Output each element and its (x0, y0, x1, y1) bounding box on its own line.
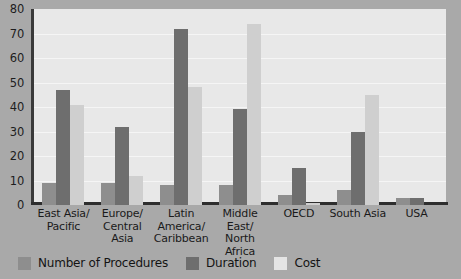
legend-swatch-icon (186, 257, 199, 270)
legend-swatch-icon (274, 257, 287, 270)
bar-procedures (101, 183, 115, 205)
legend-label: Number of Procedures (38, 256, 168, 270)
legend-label: Cost (294, 256, 320, 270)
bar-cost (188, 87, 202, 205)
legend-item[interactable]: Cost (274, 256, 320, 270)
legend-label: Duration (206, 256, 257, 270)
bar-group (93, 9, 152, 205)
bar-cost (129, 176, 143, 205)
bar-group (152, 9, 211, 205)
bar-chart: 01020304050607080 East Asia/ PacificEuro… (0, 0, 461, 279)
legend-swatch-icon (18, 257, 31, 270)
y-tick-label: 50 (0, 78, 24, 89)
y-tick-label: 70 (0, 29, 24, 40)
legend-item[interactable]: Duration (186, 256, 257, 270)
y-tick-label: 80 (0, 4, 24, 15)
bar-duration (233, 109, 247, 205)
x-axis-category-labels: East Asia/ PacificEurope/ Central AsiaLa… (34, 208, 446, 258)
bar-cost (247, 24, 261, 205)
x-tick-label: USA (387, 208, 446, 258)
x-tick-label: Middle East/ North Africa (211, 208, 270, 258)
chart-legend: Number of ProceduresDurationCost (18, 256, 338, 270)
x-tick-label: Latin America/ Caribbean (152, 208, 211, 258)
bar-duration (410, 198, 424, 205)
bar-procedures (219, 185, 233, 205)
bar-procedures (337, 190, 351, 205)
x-tick-label: South Asia (328, 208, 387, 258)
bar-duration (351, 132, 365, 206)
legend-item[interactable]: Number of Procedures (18, 256, 168, 270)
bar-cost (306, 203, 320, 205)
bar-duration (174, 29, 188, 205)
bar-duration (56, 90, 70, 205)
bar-duration (115, 127, 129, 205)
x-tick-label: Europe/ Central Asia (93, 208, 152, 258)
y-tick-label: 0 (0, 200, 24, 211)
bar-cost (70, 105, 84, 205)
bar-procedures (160, 185, 174, 205)
bar-duration (292, 168, 306, 205)
bar-procedures (42, 183, 56, 205)
bar-group (34, 9, 93, 205)
bar-group (328, 9, 387, 205)
bar-group (269, 9, 328, 205)
bar-group (387, 9, 446, 205)
y-tick-label: 60 (0, 53, 24, 64)
bar-group (211, 9, 270, 205)
bar-procedures (278, 195, 292, 205)
bar-groups (34, 9, 446, 205)
y-tick-label: 40 (0, 102, 24, 113)
y-tick-label: 10 (0, 176, 24, 187)
y-tick-label: 30 (0, 127, 24, 138)
x-tick-label: East Asia/ Pacific (34, 208, 93, 258)
x-tick-label: OECD (269, 208, 328, 258)
bar-cost (365, 95, 379, 205)
bar-procedures (396, 198, 410, 205)
y-tick-label: 20 (0, 151, 24, 162)
